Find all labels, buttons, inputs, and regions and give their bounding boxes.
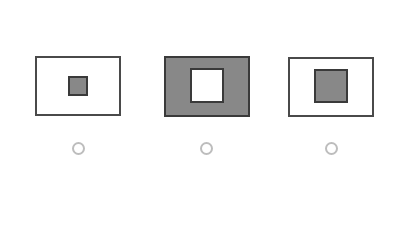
option-radio-button-3[interactable] bbox=[325, 142, 338, 155]
option-figure-inner-square bbox=[314, 69, 348, 103]
option-radio-button-2[interactable] bbox=[200, 142, 213, 155]
option-figure-inner-square bbox=[68, 76, 88, 96]
option-radio-button-1[interactable] bbox=[72, 142, 85, 155]
option-figure-inner-square bbox=[190, 68, 224, 103]
